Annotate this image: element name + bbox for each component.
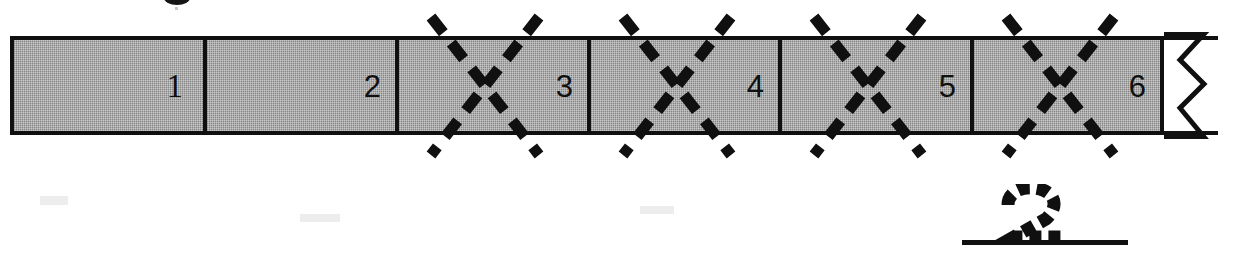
handwritten-answer-value	[962, 184, 1128, 242]
cut-off-text-mark	[164, 0, 190, 5]
answer-row: inches	[0, 178, 1236, 259]
zigzag-break-icon	[1164, 32, 1220, 139]
bar-segment-label-4: 4	[747, 70, 764, 101]
cross-out-x-4	[1000, 11, 1120, 161]
bar-segment-2: 2	[203, 36, 395, 135]
worksheet-page: 1 2 3 4 5 6	[0, 0, 1236, 259]
bar-segment-label-5: 5	[939, 70, 956, 101]
cross-out-x-2	[617, 11, 737, 161]
cross-out-x-1	[425, 11, 545, 161]
scan-speckle-a	[40, 196, 68, 205]
bar-segment-1: 1	[10, 36, 203, 135]
bar-segment-label-6: 6	[1129, 70, 1146, 101]
cut-off-text-speck	[175, 7, 178, 10]
scan-speckle-b	[300, 214, 340, 222]
measurement-bar-figure: 1 2 3 4 5 6	[0, 0, 1236, 175]
bar-segment-label-3: 3	[556, 70, 573, 101]
bar-segment-label-2: 2	[364, 70, 381, 101]
answer-blank-line	[962, 240, 1128, 245]
scan-speckle-c	[640, 206, 674, 214]
answer-blank-field[interactable]	[962, 184, 1128, 242]
bar-segment-label-1: 1	[167, 69, 184, 102]
cross-out-x-3	[808, 11, 928, 161]
